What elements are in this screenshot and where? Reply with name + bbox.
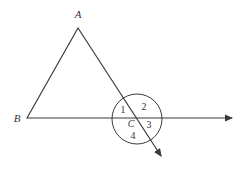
triangle-side-ab bbox=[27, 28, 78, 118]
geometry-canvas: A B C 1 2 3 4 bbox=[0, 0, 250, 174]
angle-label-3: 3 bbox=[147, 119, 152, 130]
geometry-diagram: A B C 1 2 3 4 bbox=[0, 0, 250, 174]
angle-label-4: 4 bbox=[131, 130, 136, 141]
vertex-label-b: B bbox=[14, 112, 21, 124]
angle-label-1: 1 bbox=[121, 104, 126, 115]
point-label-c: C bbox=[128, 118, 135, 129]
vertex-label-a: A bbox=[74, 8, 82, 20]
angle-label-2: 2 bbox=[142, 101, 147, 112]
